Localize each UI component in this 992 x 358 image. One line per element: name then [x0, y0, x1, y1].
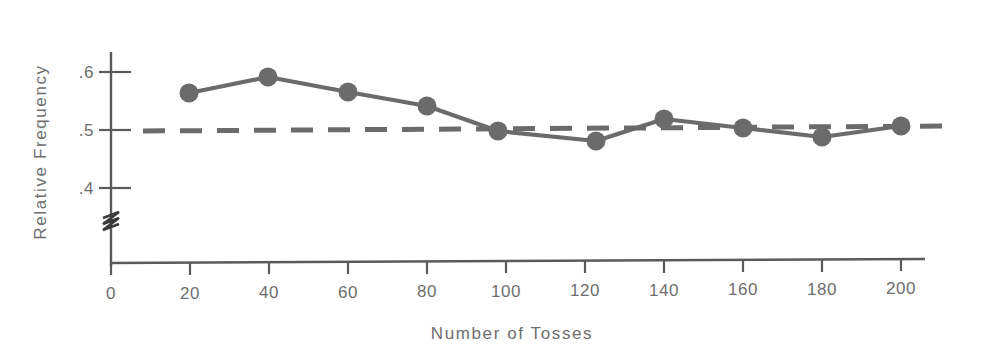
data-point: [180, 84, 199, 103]
data-point: [655, 110, 674, 129]
y-axis-title: Relative Frequency: [31, 64, 50, 239]
data-point: [418, 97, 437, 116]
y-tick-label-4: .4: [79, 179, 94, 198]
data-point: [587, 132, 606, 151]
data-point: [259, 68, 278, 87]
x-tick-label-0: 0: [106, 284, 116, 303]
x-tick-label-120: 120: [570, 281, 600, 300]
relative-frequency-line-chart: .6 .5 .4 0 20 40 60 80 100 120 140 160 1…: [0, 0, 992, 358]
data-point: [339, 83, 358, 102]
x-tick-label-100: 100: [491, 282, 521, 301]
chart-container: .6 .5 .4 0 20 40 60 80 100 120 140 160 1…: [0, 0, 992, 358]
x-axis-title: Number of Tosses: [431, 324, 593, 343]
reference-line-0.5: [143, 126, 950, 131]
x-tick-label-60: 60: [338, 283, 358, 302]
y-tick-label-6: .6: [79, 63, 94, 82]
data-point: [892, 117, 911, 136]
data-point: [813, 128, 832, 147]
x-tick-label-180: 180: [807, 280, 837, 299]
y-axis-break-icon: [103, 212, 119, 230]
x-tick-label-40: 40: [259, 283, 279, 302]
x-tick-label-20: 20: [180, 284, 200, 303]
data-point: [734, 119, 753, 138]
x-tick-label-160: 160: [728, 280, 758, 299]
y-tick-label-5: .5: [79, 121, 94, 140]
x-tick-label-200: 200: [886, 279, 916, 298]
y-tick-marks: [99, 72, 131, 188]
data-point: [489, 122, 508, 141]
x-tick-label-140: 140: [649, 281, 679, 300]
x-tick-label-80: 80: [417, 282, 437, 301]
x-axis-line: [111, 259, 925, 263]
